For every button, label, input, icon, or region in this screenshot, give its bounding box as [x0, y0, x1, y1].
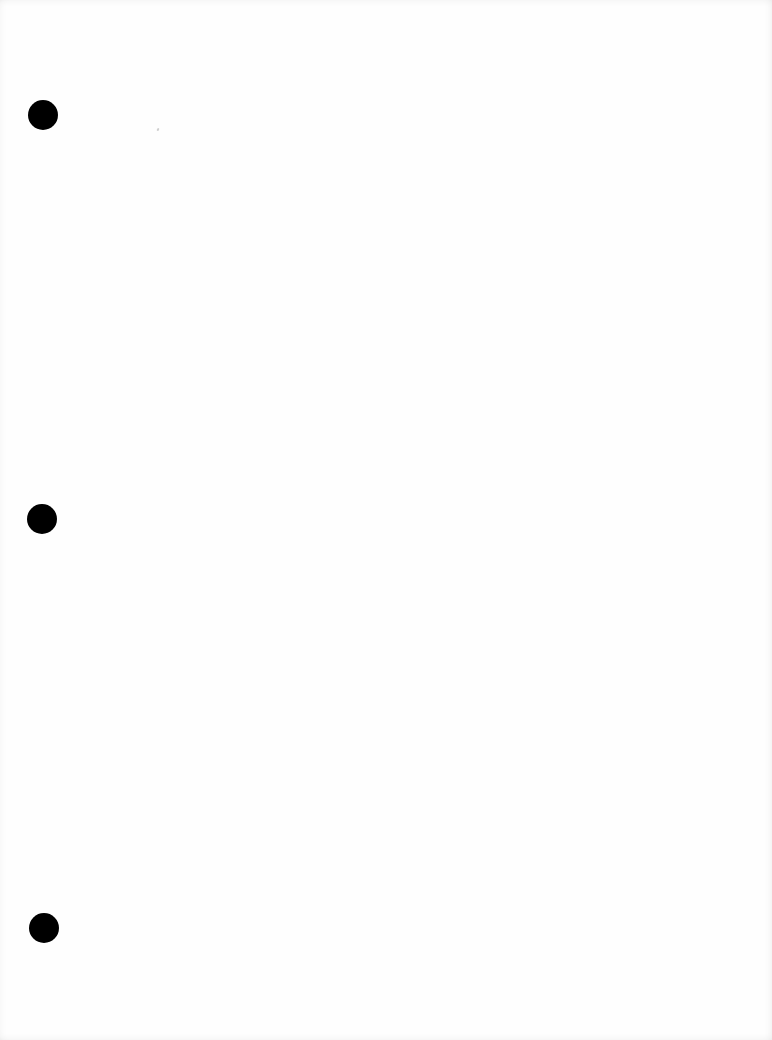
punch-hole-top [28, 100, 58, 130]
paper-speck [156, 128, 159, 132]
punch-hole-middle [27, 504, 57, 534]
blank-paper-sheet [0, 0, 772, 1040]
punch-hole-bottom [29, 913, 59, 943]
